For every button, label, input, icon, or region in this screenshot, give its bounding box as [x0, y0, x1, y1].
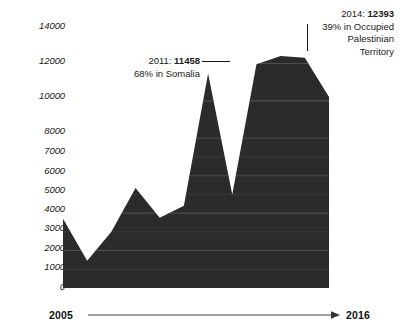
annotation-2011-year: 2011:	[148, 55, 174, 66]
y-axis-tick-12000: 12000	[5, 56, 65, 66]
annotation-2011-subtext: 68% in Somalia	[88, 68, 200, 81]
arrow-right-icon	[88, 309, 340, 321]
y-axis-tick-8000: 8000	[5, 126, 65, 136]
annotation-2014-value: 12393	[368, 8, 394, 19]
annotation-2011-value: 11458	[174, 55, 200, 66]
x-axis: 2005 2016	[0, 304, 402, 328]
annotation-2014-year: 2014:	[341, 8, 367, 19]
y-axis-tick-14000: 14000	[5, 21, 65, 31]
y-axis-tick-4000: 4000	[5, 204, 65, 214]
annotation-2011-headline: 2011: 11458	[148, 55, 200, 66]
annotation-2011: 2011: 11458 68% in Somalia	[88, 55, 200, 80]
annotation-2011-leader-line	[202, 61, 230, 62]
y-axis-tick-7000: 7000	[5, 146, 65, 156]
annotation-2014-leader-line	[307, 24, 308, 51]
annotation-2014-subtext-line-2: Palestinian	[240, 33, 394, 46]
y-axis-tick-0: 0	[5, 282, 65, 292]
annotation-2014-headline: 2014: 12393	[240, 8, 394, 21]
y-axis-tick-5000: 5000	[5, 185, 65, 195]
annotation-2014-subtext-line-1: 39% in Occupied	[240, 21, 394, 34]
x-axis-end-label: 2016	[346, 309, 370, 321]
y-axis-tick-10000: 10000	[5, 91, 65, 101]
y-axis-tick-1000: 1000	[5, 262, 65, 272]
area-chart: 1400012000100008000700060005000400030002…	[0, 0, 402, 334]
y-axis-tick-3000: 3000	[5, 223, 65, 233]
y-axis-tick-6000: 6000	[5, 166, 65, 176]
annotation-2014: 2014: 12393 39% in Occupied Palestinian …	[240, 8, 394, 58]
annotation-2014-subtext-line-3: Territory	[240, 46, 394, 59]
area-series-fill	[63, 56, 329, 288]
x-axis-start-label: 2005	[49, 309, 73, 321]
y-axis-tick-2000: 2000	[5, 243, 65, 253]
